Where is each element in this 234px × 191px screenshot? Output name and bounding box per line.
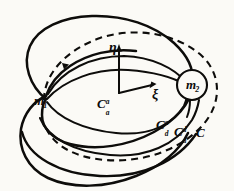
orbital-transfer-figure: m1 m2 η ξ Caa Cad Cdd C <box>0 0 234 191</box>
c-a-a-label: Caa <box>97 95 106 111</box>
m2-label-sub: 2 <box>195 85 199 94</box>
c-a-a-label-sup: a <box>106 98 110 106</box>
c-d-d-label-sup: d <box>183 126 187 134</box>
c-d-d-label: Cdd <box>174 123 183 139</box>
c-label-base: C <box>196 125 205 140</box>
c-d-a-label-sub: d <box>165 130 169 138</box>
xi-label: ξ <box>152 86 158 102</box>
m1-label: m1 <box>34 92 48 108</box>
c-d-a-label: Cad <box>156 116 165 132</box>
c-d-d-label-base: C <box>174 124 183 139</box>
m1-label-sub: 1 <box>43 101 47 110</box>
eta-arrow-head <box>116 44 121 52</box>
eta-label-base: η <box>109 40 117 55</box>
c-d-a-label-sup: a <box>165 119 169 127</box>
c-label: C <box>196 124 205 140</box>
upper-transfer-arc <box>48 56 186 94</box>
c-a-a-label-sub: a <box>106 109 110 117</box>
c-d-d-label-sub: d <box>183 137 187 145</box>
m2-label: m2 <box>186 76 200 92</box>
lower-transfer-arc-cda <box>47 90 188 134</box>
mid-transfer-arc <box>47 70 186 99</box>
c-a-a-label-base: C <box>97 96 106 111</box>
c-d-a-label-base: C <box>156 117 165 132</box>
eta-label: η <box>109 39 117 55</box>
xi-label-base: ξ <box>152 87 158 102</box>
xi-axis-line <box>119 85 152 93</box>
